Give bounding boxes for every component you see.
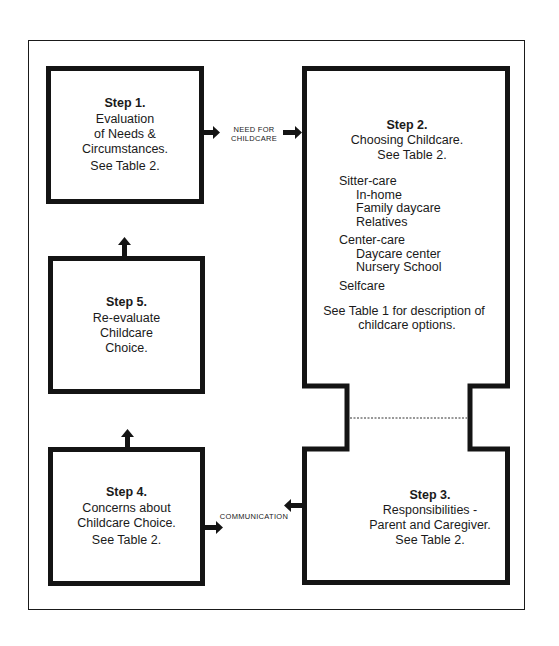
option-item: Family daycare: [356, 202, 502, 216]
step5-title: Step 5.: [106, 295, 147, 310]
step1-line: of Needs &: [94, 127, 156, 142]
step2-footnote: See Table 1 for description of: [306, 305, 502, 319]
step1-line: Evaluation: [96, 112, 154, 127]
step4-line: See Table 2.: [92, 533, 161, 548]
step1-title: Step 1.: [105, 96, 146, 111]
step2-line: Choosing Childcare.: [312, 133, 502, 148]
option-item: In-home: [356, 189, 502, 203]
option-category: Sitter-care: [339, 175, 502, 189]
step5-line: Re-evaluate: [93, 311, 160, 326]
connector-label-line: CHILDCARE: [226, 134, 282, 143]
arrow-right-icon: [204, 521, 223, 534]
arrow-up-icon: [118, 237, 131, 256]
step4-title: Step 4.: [106, 485, 147, 500]
step3-box: Step 3. Responsibilities - Parent and Ca…: [350, 488, 510, 548]
option-category: Selfcare: [339, 280, 502, 294]
step5-line: Childcare: [100, 326, 153, 341]
step3-line: Responsibilities -: [350, 503, 510, 518]
communication-label: COMMUNICATION: [218, 512, 290, 521]
option-category: Center-care: [339, 234, 502, 248]
arrow-up-icon: [121, 429, 134, 447]
need-for-childcare-label: NEED FOR CHILDCARE: [226, 125, 282, 143]
step1-box: Step 1. Evaluation of Needs & Circumstan…: [46, 66, 204, 204]
step1-line: See Table 2.: [90, 159, 159, 174]
step4-line: Childcare Choice.: [77, 516, 176, 531]
step4-box: Step 4. Concerns about Childcare Choice.…: [48, 447, 205, 586]
step3-title: Step 3.: [350, 488, 510, 503]
connector-label-line: COMMUNICATION: [220, 512, 288, 521]
step5-box: Step 5. Re-evaluate Childcare Choice.: [48, 256, 205, 394]
step1-line: Circumstances.: [82, 142, 168, 157]
connector-label-line: NEED FOR: [226, 125, 282, 134]
option-item: Nursery School: [356, 261, 502, 275]
option-item: Relatives: [356, 216, 502, 230]
option-item: Daycare center: [356, 248, 502, 262]
step2-box: Step 2. Choosing Childcare. See Table 2.…: [312, 118, 502, 332]
step2-title: Step 2.: [312, 118, 502, 133]
step2-line: See Table 2.: [312, 148, 502, 163]
arrow-right-icon: [283, 126, 302, 139]
step3-line: See Table 2.: [350, 533, 510, 548]
step5-line: Choice.: [105, 341, 147, 356]
step4-line: Concerns about: [82, 501, 170, 516]
arrow-right-icon: [203, 126, 220, 139]
step2-footnote: childcare options.: [312, 319, 502, 333]
step3-line: Parent and Caregiver.: [350, 518, 510, 533]
arrow-left-icon: [284, 499, 303, 512]
